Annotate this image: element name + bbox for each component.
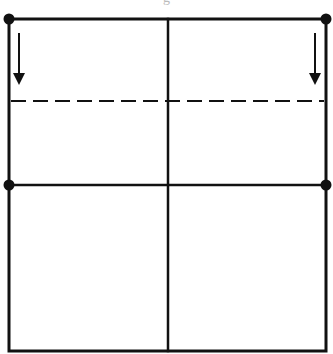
middle-right-dot <box>321 180 332 191</box>
top-right-dot <box>321 14 332 25</box>
middle-left-dot <box>4 180 15 191</box>
left-down-arrow-head-icon <box>13 73 25 85</box>
fold-diagram <box>0 0 333 354</box>
top-left-dot <box>4 14 15 25</box>
right-down-arrow-head-icon <box>309 73 321 85</box>
